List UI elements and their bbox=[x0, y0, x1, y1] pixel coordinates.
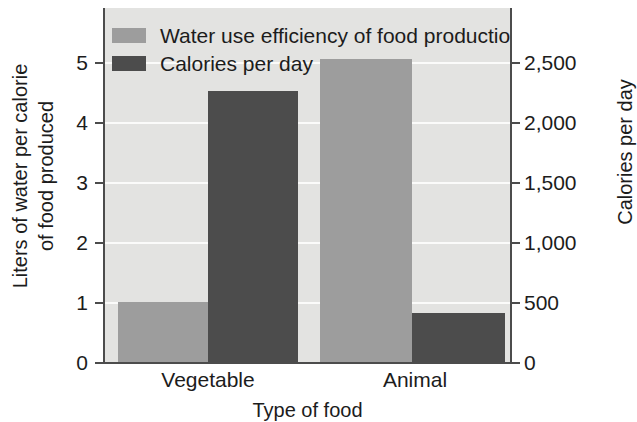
right-ticklabel-500: 500 bbox=[524, 292, 604, 313]
bar-vegetable-water-use bbox=[118, 302, 208, 362]
xtick-label-vegetable: Vegetable bbox=[118, 368, 298, 392]
left-tick-4 bbox=[95, 122, 103, 124]
right-ticklabel-1500: 1,500 bbox=[524, 172, 604, 193]
left-tick-2 bbox=[95, 242, 103, 244]
right-ticklabel-2000: 2,000 bbox=[524, 112, 604, 133]
gridline-4 bbox=[105, 122, 510, 124]
x-axis-title: Type of food bbox=[105, 398, 510, 422]
bar-animal-water-use bbox=[320, 59, 412, 362]
legend-item-water-use: Water use efficiency of food production bbox=[112, 22, 510, 48]
left-tick-5 bbox=[95, 62, 103, 64]
legend-label-water-use: Water use efficiency of food production bbox=[160, 25, 510, 46]
gridline-3 bbox=[105, 182, 510, 184]
right-tick-1000 bbox=[512, 242, 520, 244]
legend-item-calories: Calories per day bbox=[112, 50, 510, 76]
bar-vegetable-calories bbox=[208, 91, 298, 362]
bar-animal-calories bbox=[412, 313, 505, 362]
chart-legend: Water use efficiency of food production … bbox=[112, 22, 510, 78]
left-axis-title-line2: of food produced bbox=[33, 11, 59, 341]
right-tick-1500 bbox=[512, 182, 520, 184]
left-tick-3 bbox=[95, 182, 103, 184]
gridline-2 bbox=[105, 242, 510, 244]
xtick-label-animal: Animal bbox=[320, 368, 510, 392]
left-axis-title: Liters of water per calorie of food prod… bbox=[7, 11, 59, 341]
legend-label-calories: Calories per day bbox=[160, 53, 313, 74]
bottom-axis-line bbox=[103, 362, 512, 364]
right-tick-2000 bbox=[512, 122, 520, 124]
right-ticklabel-0: 0 bbox=[524, 352, 604, 373]
right-tick-0 bbox=[512, 362, 520, 364]
right-ticklabel-1000: 1,000 bbox=[524, 232, 604, 253]
left-tick-0 bbox=[95, 362, 103, 364]
left-axis-line bbox=[103, 8, 105, 364]
right-tick-500 bbox=[512, 302, 520, 304]
left-axis-title-line1: Liters of water per calorie bbox=[7, 11, 33, 341]
left-tick-1 bbox=[95, 302, 103, 304]
plot-area: Water use efficiency of food production … bbox=[105, 8, 510, 362]
legend-swatch-water-use bbox=[112, 28, 146, 43]
right-axis-title: Calories per day bbox=[613, 7, 637, 297]
right-tick-2500 bbox=[512, 62, 520, 64]
legend-swatch-calories bbox=[112, 56, 146, 71]
left-ticklabel-0: 0 bbox=[0, 352, 88, 373]
right-ticklabel-2500: 2,500 bbox=[524, 52, 604, 73]
